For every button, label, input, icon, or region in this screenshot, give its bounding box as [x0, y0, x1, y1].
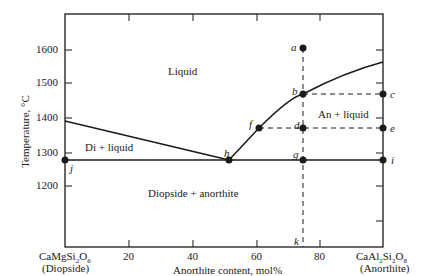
point-g	[300, 157, 307, 164]
point-a	[300, 45, 307, 52]
region-di-liquid: Di + liquid	[85, 142, 133, 153]
label-e: e	[390, 123, 395, 134]
plot-frame	[65, 14, 383, 247]
point-e	[380, 125, 387, 132]
label-h: h	[224, 148, 230, 159]
x-tick-40: 40	[187, 251, 198, 262]
label-g: g	[293, 149, 299, 160]
dashed-guides	[259, 48, 383, 247]
x-tick-20: 20	[123, 251, 134, 262]
label-b: b	[292, 86, 298, 97]
point-d	[300, 125, 307, 132]
label-j: j	[70, 163, 73, 174]
right-endpoint-name: (Anorthite)	[360, 263, 409, 274]
point-i	[380, 157, 387, 164]
y-tick-1300: 1300	[36, 147, 58, 158]
label-a: a	[291, 42, 297, 53]
x-axis-label: Anorthite content, mol%	[173, 265, 282, 276]
point-f	[256, 125, 263, 132]
x-tick-60: 60	[251, 251, 262, 262]
y-tick-1200: 1200	[36, 180, 58, 191]
label-c: c	[390, 89, 395, 100]
region-diopside-anorthite: Diopside + anorthite	[148, 188, 239, 199]
label-k: k	[294, 236, 299, 247]
point-j	[62, 157, 69, 164]
y-tick-1400: 1400	[36, 112, 58, 123]
y-axis-label: Temperature, °C	[20, 82, 31, 182]
point-b	[300, 91, 307, 98]
region-an-liquid: An + liquid	[318, 109, 369, 120]
region-liquid: Liquid	[168, 66, 197, 77]
label-i: i	[391, 155, 394, 166]
y-tick-1600: 1600	[36, 44, 58, 55]
left-endpoint-name: (Diopside)	[42, 263, 89, 274]
label-d: d	[294, 120, 300, 131]
y-tick-1500: 1500	[36, 77, 58, 88]
label-f: f	[249, 119, 252, 130]
point-c	[380, 91, 387, 98]
x-tick-80: 80	[314, 251, 325, 262]
